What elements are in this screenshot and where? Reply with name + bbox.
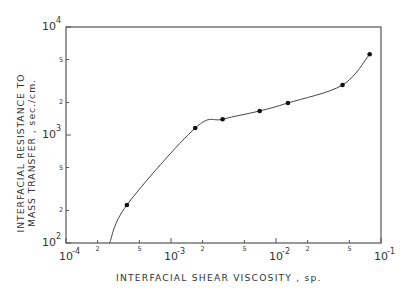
x-tick-label: 10 bbox=[374, 250, 388, 263]
x-minor-tick-label: 2 bbox=[96, 245, 100, 253]
y-minor-tick-label: 5 bbox=[59, 164, 63, 172]
y-tick-exponent: 2 bbox=[56, 232, 61, 241]
x-minor-tick-label: 2 bbox=[201, 245, 205, 253]
x-axis-ticks: 10-410-310-210-1252525 bbox=[59, 238, 395, 263]
x-tick-exponent: -1 bbox=[387, 247, 395, 256]
y-tick-label: 10 bbox=[42, 20, 56, 33]
y-minor-tick-label: 2 bbox=[59, 206, 63, 214]
y-axis-label-line1: INTERFACIAL RESISTANCE TO bbox=[15, 74, 26, 233]
x-minor-tick-label: 5 bbox=[347, 245, 351, 253]
data-point-marker bbox=[257, 109, 262, 114]
data-point-marker bbox=[286, 101, 291, 106]
y-minor-tick-label: 5 bbox=[59, 56, 63, 64]
x-tick-label: 10 bbox=[164, 250, 178, 263]
data-point-marker bbox=[340, 83, 345, 88]
axes-box bbox=[66, 27, 381, 243]
data-point-marker bbox=[125, 203, 130, 208]
y-axis-label-line2: MASS TRANSFER , sec./cm. bbox=[26, 74, 37, 233]
data-points bbox=[125, 52, 372, 207]
x-tick-label: 10 bbox=[269, 250, 283, 263]
x-tick-exponent: -2 bbox=[282, 247, 290, 256]
plot-frame bbox=[66, 27, 381, 243]
data-point-marker bbox=[193, 126, 198, 131]
chart-canvas: 10-410-310-210-1252525 1021031042525 bbox=[0, 0, 402, 294]
x-axis-label: INTERFACIAL SHEAR VISCOSITY , sp. bbox=[116, 272, 322, 283]
y-minor-tick-label: 2 bbox=[59, 98, 63, 106]
x-tick-exponent: -4 bbox=[72, 247, 80, 256]
x-minor-tick-label: 2 bbox=[306, 245, 310, 253]
y-axis-ticks: 1021031042525 bbox=[42, 16, 71, 249]
x-minor-tick-label: 5 bbox=[137, 245, 141, 253]
data-point-marker bbox=[220, 117, 225, 122]
x-tick-label: 10 bbox=[59, 250, 73, 263]
fitted-curve bbox=[110, 54, 370, 243]
data-point-marker bbox=[367, 52, 372, 57]
x-minor-tick-label: 5 bbox=[242, 245, 246, 253]
y-axis-label: INTERFACIAL RESISTANCE TO MASS TRANSFER … bbox=[6, 53, 46, 253]
y-tick-exponent: 4 bbox=[56, 16, 61, 25]
x-tick-exponent: -3 bbox=[177, 247, 185, 256]
y-tick-exponent: 3 bbox=[56, 124, 61, 133]
